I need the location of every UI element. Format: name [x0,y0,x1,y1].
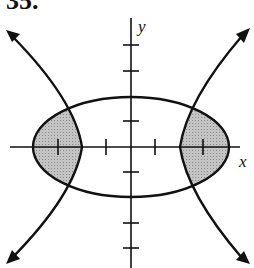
y-axis-label: y [136,17,146,36]
x-axis-label: x [238,152,247,171]
graph: y x [0,0,254,268]
arrow-top-left-icon [6,30,20,42]
